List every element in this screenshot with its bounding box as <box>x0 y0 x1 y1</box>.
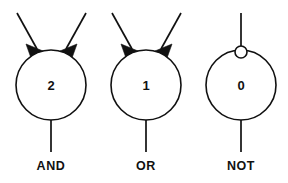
and-gate-input-line-right <box>66 13 86 49</box>
threshold-logic-diagram: 2 AND 1 OR 0 NOT <box>0 0 288 183</box>
not-gate: 0 NOT <box>206 13 276 173</box>
and-gate: 2 AND <box>16 13 86 173</box>
or-gate-input-line-right <box>161 13 181 49</box>
not-gate-threshold-value: 0 <box>237 78 244 93</box>
and-gate-label: AND <box>37 159 66 173</box>
or-gate-threshold-value: 1 <box>142 78 149 93</box>
or-gate-label: OR <box>136 159 156 173</box>
or-gate-input-line-left <box>112 13 132 49</box>
and-gate-input-line-left <box>17 13 37 49</box>
gate-diagram-canvas: 2 AND 1 OR 0 NOT <box>0 0 288 183</box>
not-gate-inhibitory-bubble-icon <box>235 46 247 58</box>
and-gate-threshold-value: 2 <box>47 78 54 93</box>
not-gate-label: NOT <box>227 159 255 173</box>
or-gate: 1 OR <box>111 13 181 173</box>
